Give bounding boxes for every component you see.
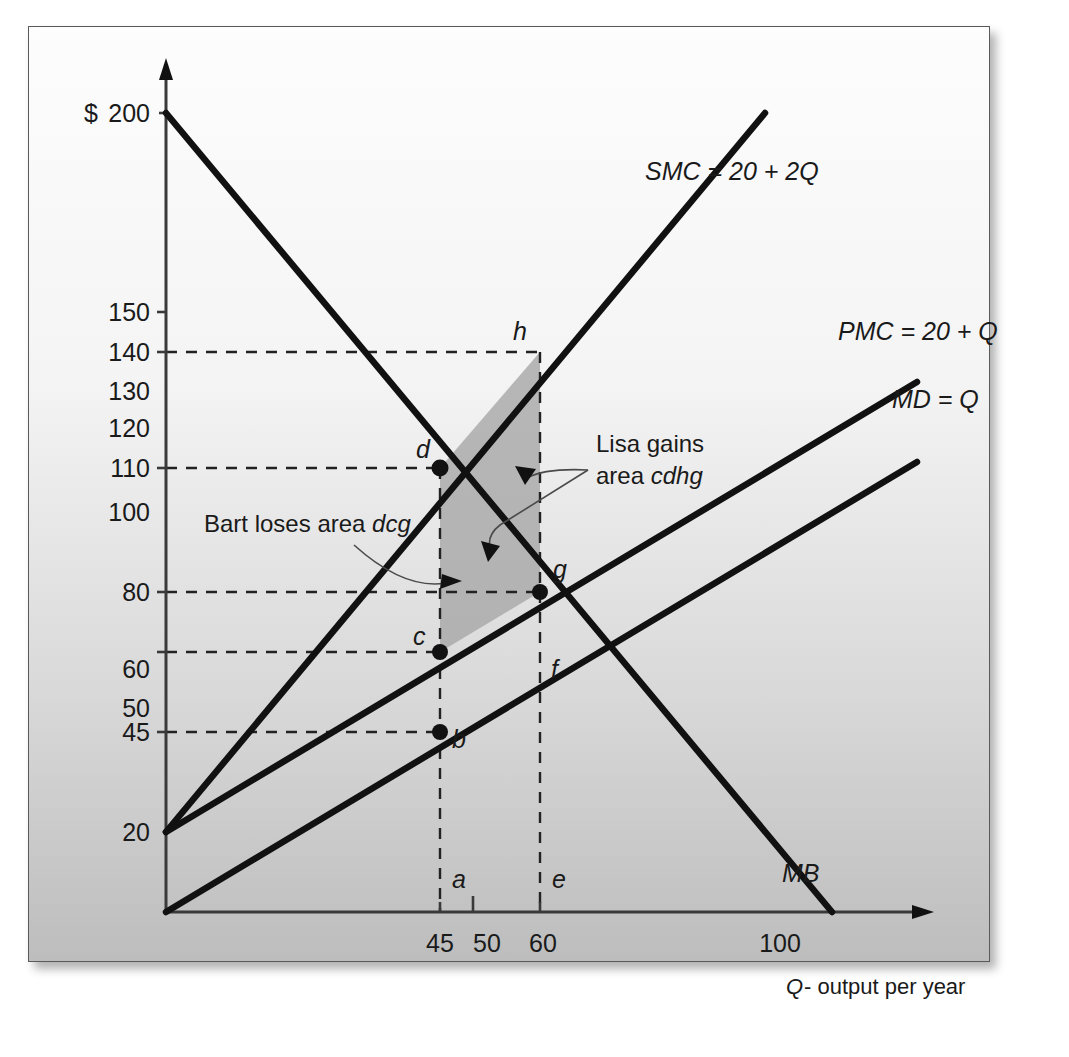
y-tick-label-150: 150 xyxy=(108,298,150,326)
point-label-a: a xyxy=(452,865,466,893)
figure-page: 200 $ 150 140 130 120 110 100 80 60 50 4… xyxy=(0,0,1069,1057)
curve-label-mb: MB xyxy=(782,859,820,887)
x-tick-label-100: 100 xyxy=(759,929,801,957)
y-tick-label-60: 60 xyxy=(122,655,150,683)
point-label-h: h xyxy=(513,317,527,345)
y-tick-label-140: 140 xyxy=(108,338,150,366)
x-axis-title-symbol: Q xyxy=(786,974,803,999)
annotation-lisa-prefix: area xyxy=(596,462,651,489)
annotation-bart-prefix: Bart loses area xyxy=(204,510,372,537)
y-tick-label-100: 100 xyxy=(108,498,150,526)
y-tick-label-120: 120 xyxy=(108,414,150,442)
x-axis-title-text: - output per year xyxy=(804,974,965,999)
curve-label-smc: SMC = 20 + 2Q xyxy=(645,157,819,185)
point-label-g: g xyxy=(553,555,567,583)
y-tick-label-45: 45 xyxy=(122,718,150,746)
x-tick-label-45: 45 xyxy=(426,929,454,957)
x-tick-label-60: 60 xyxy=(529,929,557,957)
x-tick-label-50: 50 xyxy=(473,929,501,957)
point-marker-g xyxy=(532,584,548,600)
y-tick-label-20: 20 xyxy=(122,818,150,846)
point-marker-b xyxy=(432,724,448,740)
y-axis-arrow-icon xyxy=(159,58,173,80)
point-label-d: d xyxy=(416,435,431,463)
curve-label-md: MD = Q xyxy=(892,385,979,413)
point-label-b: b xyxy=(452,725,466,753)
annotation-lisa-region: cdhg xyxy=(651,462,704,489)
y-tick-label-110: 110 xyxy=(110,454,150,482)
point-marker-d xyxy=(432,460,449,477)
point-marker-c xyxy=(432,644,448,660)
annotation-bart: Bart loses area dcg xyxy=(204,510,411,537)
point-label-e: e xyxy=(552,865,566,893)
y-tick-label-200: 200 xyxy=(108,99,150,127)
point-label-c: c xyxy=(413,622,426,650)
annotation-bart-region: dcg xyxy=(372,510,411,537)
x-axis-arrow-icon xyxy=(912,905,934,919)
externality-chart: 200 $ 150 140 130 120 110 100 80 60 50 4… xyxy=(0,0,1069,1057)
y-tick-label-80: 80 xyxy=(122,578,150,606)
y-tick-label-130: 130 xyxy=(108,377,150,405)
currency-label: $ xyxy=(84,99,98,127)
annotation-lisa-line2: area cdhg xyxy=(596,462,703,489)
curve-pmc xyxy=(166,382,917,832)
annotation-lisa-line1: Lisa gains xyxy=(596,430,704,457)
curve-label-pmc: PMC = 20 + Q xyxy=(838,317,998,345)
